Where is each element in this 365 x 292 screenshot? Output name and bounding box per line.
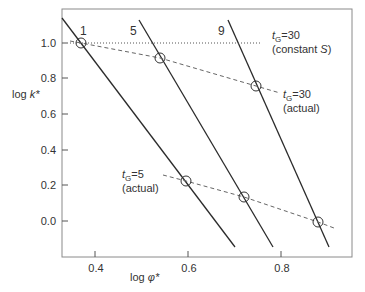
label-tg30-constant: tG=30 [272, 29, 300, 44]
label-line-1: 1 [80, 24, 87, 38]
label-tg5-actual: tG=5 [122, 168, 144, 183]
label-tg30-constant-sub: (constant S) [272, 43, 331, 55]
y-tick-label: 0.6 [41, 108, 56, 120]
line-5 [139, 20, 273, 247]
data-markers [76, 38, 323, 227]
x-tick-label: 0.4 [88, 262, 103, 274]
chart: 1.0 0.8 0.6 0.4 0.2 0.0 0.4 0.6 0.8 log … [0, 0, 365, 292]
line-1 [62, 18, 235, 247]
y-tick-label: 0.4 [41, 144, 56, 156]
label-tg30-actual: tG=30 [283, 88, 311, 103]
x-tick-label: 0.8 [274, 262, 289, 274]
y-axis [62, 43, 68, 221]
x-axis [95, 251, 281, 257]
label-line-5: 5 [130, 24, 137, 38]
label-tg30-actual-sub: (actual) [283, 102, 320, 114]
y-tick-label: 0.2 [41, 179, 56, 191]
label-tg5-actual-sub: (actual) [122, 182, 159, 194]
y-axis-label: log k* [12, 88, 40, 100]
x-tick-label: 0.6 [181, 262, 196, 274]
y-tick-label: 0.8 [41, 72, 56, 84]
x-axis-label: log φ* [130, 271, 160, 283]
label-line-9: 9 [218, 24, 225, 38]
y-tick-label: 0.0 [41, 215, 56, 227]
y-tick-label: 1.0 [41, 37, 56, 49]
